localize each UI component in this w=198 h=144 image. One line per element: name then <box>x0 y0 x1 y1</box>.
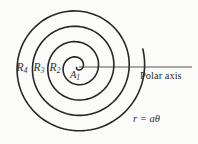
label-a1-subscript: 1 <box>76 73 80 82</box>
polar-axis-label: Polar axis <box>140 71 182 82</box>
label-a1: A1 <box>70 70 80 82</box>
label-r3-subscript: 3 <box>41 66 45 75</box>
label-r2-base: R <box>50 61 57 73</box>
label-r4-subscript: 4 <box>24 66 28 75</box>
label-r3: R3 <box>34 62 45 75</box>
label-r4-base: R <box>17 61 24 73</box>
label-r2-subscript: 2 <box>57 66 61 75</box>
label-r3-base: R <box>34 61 41 73</box>
equation-label: r = aθ <box>133 113 160 124</box>
label-r4: R4 <box>17 62 28 75</box>
label-r2: R2 <box>50 62 61 75</box>
spiral-figure: R4 R3 R2 A1 Polar axis r = aθ <box>0 0 198 144</box>
